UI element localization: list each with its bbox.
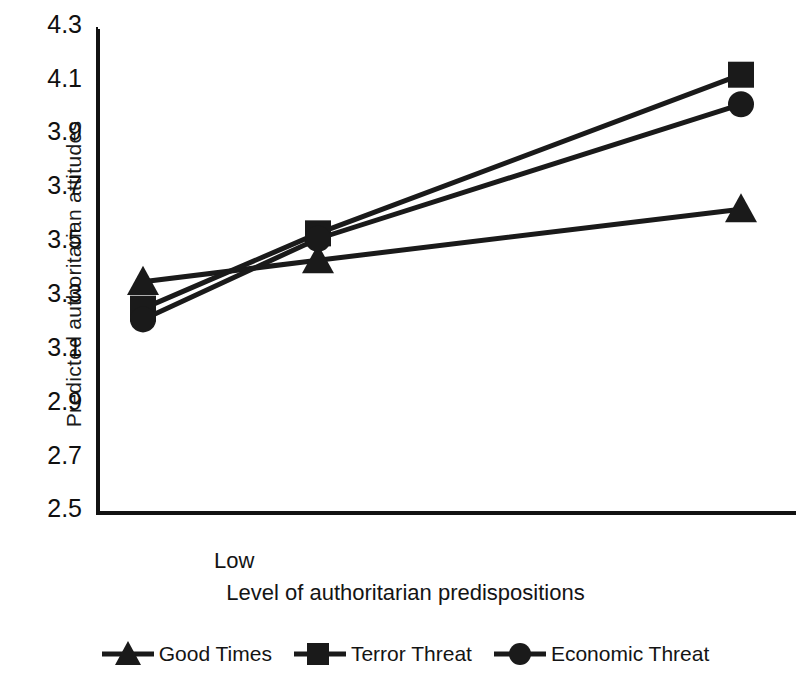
legend-item[interactable]: Economic Threat — [494, 641, 709, 667]
circle-marker-icon — [494, 641, 546, 667]
chart-figure: Predicted authoritarian attitudes 4.3 4.… — [0, 0, 811, 698]
series-line — [143, 75, 741, 309]
y-tick-label: 4.1 — [20, 66, 82, 91]
x-tick-label-low: Low — [214, 548, 254, 574]
series-layer — [127, 62, 757, 333]
y-tick-label: 3.7 — [20, 173, 82, 198]
y-tick-label: 3.9 — [20, 119, 82, 144]
legend-item[interactable]: Good Times — [102, 641, 272, 667]
legend-label: Economic Threat — [551, 642, 709, 666]
y-tick-label: 2.7 — [20, 443, 82, 468]
circle-marker — [509, 643, 531, 665]
chart-canvas — [96, 20, 796, 520]
y-tick-label: 3.5 — [20, 227, 82, 252]
y-tick-label: 3.3 — [20, 281, 82, 306]
circle-marker — [305, 226, 331, 252]
y-axis-tick-labels: 4.3 4.1 3.9 3.7 3.5 3.3 3.1 2.9 2.7 2.5 — [10, 0, 82, 560]
series-good-times — [127, 193, 757, 295]
legend-label: Terror Threat — [351, 642, 472, 666]
legend-item[interactable]: Terror Threat — [294, 641, 472, 667]
y-tick-label: 4.3 — [20, 12, 82, 37]
plot-area: Low High — [96, 20, 796, 520]
y-tick-label: 2.9 — [20, 389, 82, 414]
square-marker — [728, 62, 754, 88]
series-line — [143, 104, 741, 319]
legend-label: Good Times — [159, 642, 272, 666]
x-axis-title: Level of authoritarian predispositions — [0, 580, 811, 606]
series-economic-threat — [130, 91, 754, 332]
triangle-marker — [725, 193, 757, 222]
circle-marker — [728, 91, 754, 117]
square-marker — [307, 643, 329, 665]
triangle-marker-icon — [102, 641, 154, 667]
chart-legend: Good TimesTerror ThreatEconomic Threat — [0, 641, 811, 667]
square-marker-icon — [294, 641, 346, 667]
y-tick-label: 2.5 — [20, 496, 82, 521]
y-tick-label: 3.1 — [20, 335, 82, 360]
circle-marker — [130, 306, 156, 332]
